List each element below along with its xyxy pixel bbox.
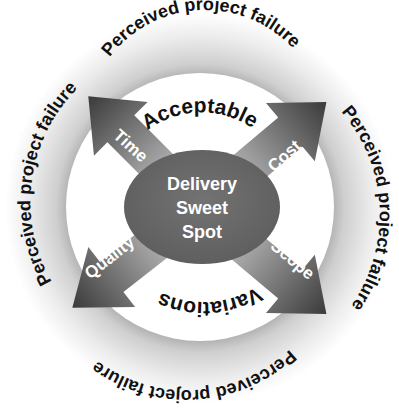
center-label-line3: Spot: [182, 222, 222, 242]
center-label-line1: Delivery: [167, 174, 237, 194]
center-label-line2: Sweet: [176, 198, 228, 218]
center-sweet-spot: Delivery Sweet Spot: [124, 150, 280, 264]
delivery-sweet-spot-diagram: Time Cost Quality Scope Delivery Sweet S…: [0, 0, 399, 413]
